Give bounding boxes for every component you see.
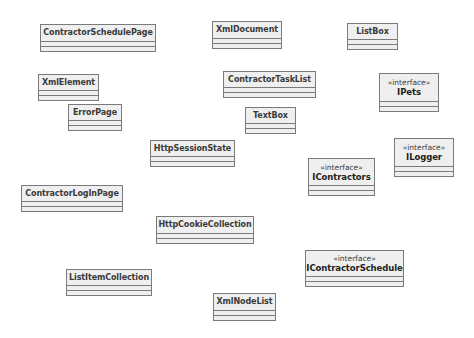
uml-class-box[interactable]: «interface»IPets [379,73,439,112]
class-name-compartment: «interface»IPets [380,74,438,102]
class-name-compartment: ContractorLogInPage [22,186,122,202]
operations-compartment [151,162,234,166]
class-name-label: IContractors [312,172,370,182]
stereotype-label: «interface» [320,163,363,172]
operations-compartment [395,172,453,176]
uml-class-box[interactable]: «interface»IContractorSchedule [305,250,404,287]
stereotype-label: «interface» [333,254,376,263]
stereotype-label: «interface» [403,143,446,152]
class-name-label: XmlElement [42,78,95,88]
class-name-label: IContractorSchedule [306,263,402,273]
class-name-label: ErrorPage [73,108,117,118]
uml-class-box[interactable]: XmlNodeList [213,293,276,321]
class-name-compartment: «interface»IContractorSchedule [306,251,403,277]
class-name-compartment: XmlElement [39,75,98,91]
operations-compartment [309,191,374,195]
operations-compartment [214,316,275,320]
operations-compartment [67,291,151,295]
class-name-compartment: HttpCookieCollection [157,217,253,234]
operations-compartment [22,207,122,211]
operations-compartment [380,107,438,111]
uml-class-box[interactable]: ContractorTaskList [223,71,316,98]
class-name-label: ILogger [406,152,442,162]
operations-compartment [306,282,403,286]
class-name-compartment: «interface»IContractors [309,159,374,186]
class-name-compartment: ListItemCollection [67,270,151,286]
class-name-label: IPets [397,87,421,97]
class-name-compartment: XmlNodeList [214,294,275,311]
uml-class-box[interactable]: ErrorPage [68,104,122,131]
uml-class-box[interactable]: XmlElement [38,74,99,101]
diagram-canvas: ContractorSchedulePageXmlDocumentListBox… [0,0,474,338]
class-name-label: ListItemCollection [69,273,149,283]
operations-compartment [246,129,295,133]
operations-compartment [224,93,315,97]
class-name-label: TextBox [253,111,288,121]
uml-class-box[interactable]: ListItemCollection [66,269,152,296]
class-name-compartment: XmlDocument [213,22,281,39]
class-name-compartment: ContractorTaskList [224,72,315,88]
operations-compartment [348,45,397,49]
uml-class-box[interactable]: XmlDocument [212,21,282,49]
class-name-label: HttpSessionState [154,144,231,154]
uml-class-box[interactable]: HttpCookieCollection [156,216,254,244]
class-name-label: XmlDocument [216,25,278,35]
uml-class-box[interactable]: ContractorLogInPage [21,185,123,212]
operations-compartment [157,239,253,243]
uml-class-box[interactable]: ListBox [347,23,398,50]
class-name-compartment: HttpSessionState [151,141,234,157]
uml-class-box[interactable]: ContractorSchedulePage [40,24,156,52]
operations-compartment [39,96,98,100]
uml-class-box[interactable]: «interface»ILogger [394,138,454,177]
operations-compartment [69,126,121,130]
class-name-compartment: ErrorPage [69,105,121,121]
class-name-compartment: ContractorSchedulePage [41,25,155,42]
uml-class-box[interactable]: HttpSessionState [150,140,235,167]
stereotype-label: «interface» [388,78,431,87]
operations-compartment [41,47,155,51]
class-name-compartment: ListBox [348,24,397,40]
class-name-label: ContractorLogInPage [25,189,119,199]
class-name-label: XmlNodeList [217,297,273,307]
operations-compartment [213,44,281,48]
class-name-compartment: TextBox [246,108,295,124]
class-name-label: ContractorSchedulePage [43,28,152,38]
uml-class-box[interactable]: «interface»IContractors [308,158,375,196]
class-name-label: ContractorTaskList [228,75,311,85]
class-name-compartment: «interface»ILogger [395,139,453,167]
class-name-label: HttpCookieCollection [158,220,251,230]
class-name-label: ListBox [356,27,388,37]
uml-class-box[interactable]: TextBox [245,107,296,134]
